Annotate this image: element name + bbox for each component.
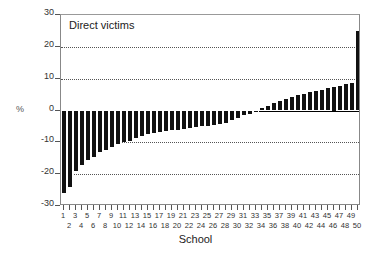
x-tick-mark — [249, 205, 250, 210]
bar — [337, 86, 342, 111]
x-tick-mark — [231, 205, 232, 210]
x-tick-mark — [207, 205, 208, 210]
x-tick-mark — [189, 205, 190, 210]
bar — [109, 111, 114, 148]
x-tick-mark — [141, 205, 142, 210]
bar — [181, 111, 186, 129]
y-tick-label: -30 — [41, 198, 54, 208]
y-tick-label: 0 — [49, 103, 54, 113]
bar — [121, 111, 126, 143]
bar — [343, 84, 348, 110]
x-tick-mark — [171, 205, 172, 210]
x-tick-mark — [303, 205, 304, 210]
y-tick-label: 20 — [44, 39, 54, 49]
x-tick-mark — [87, 205, 88, 210]
bar — [151, 111, 156, 133]
bar — [241, 111, 246, 116]
bar — [73, 111, 78, 171]
bar — [103, 111, 108, 151]
bar — [271, 103, 276, 110]
chart-figure: % 3020100-10-20-30 Direct victims 135791… — [0, 0, 391, 257]
x-tick-label: 50 — [347, 221, 367, 230]
x-tick-mark — [357, 205, 358, 210]
bar — [289, 97, 294, 110]
x-tick-mark — [75, 205, 76, 210]
x-tick-mark — [117, 205, 118, 210]
x-tick-mark — [291, 205, 292, 210]
chart-title: Direct victims — [69, 19, 134, 31]
bar — [193, 111, 198, 128]
x-tick-mark — [219, 205, 220, 210]
bar — [211, 111, 216, 125]
bar — [217, 111, 222, 124]
bar — [331, 87, 336, 111]
bar — [307, 92, 312, 110]
x-tick-mark — [105, 205, 106, 210]
y-tick-label: -20 — [41, 166, 54, 176]
x-tick-mark — [93, 205, 94, 210]
x-tick-mark — [213, 205, 214, 210]
bar — [253, 111, 258, 113]
bar — [157, 111, 162, 133]
x-tick-mark — [201, 205, 202, 210]
x-axis-labels-even: 2468101214161820222426283032343638404244… — [60, 221, 360, 232]
x-tick-mark — [81, 205, 82, 210]
bar — [163, 111, 168, 132]
x-tick-mark — [273, 205, 274, 210]
x-tick-mark — [135, 205, 136, 210]
x-tick-mark — [177, 205, 178, 210]
x-tick-mark — [237, 205, 238, 210]
y-tick-label: 30 — [44, 7, 54, 17]
x-tick-mark — [267, 205, 268, 210]
bar — [133, 111, 138, 138]
bar — [175, 111, 180, 130]
x-tick-mark — [243, 205, 244, 210]
x-tick-mark — [225, 205, 226, 210]
x-tick-mark — [195, 205, 196, 210]
x-tick-mark — [321, 205, 322, 210]
x-tick-mark — [351, 205, 352, 210]
plot-area: Direct victims — [60, 14, 360, 205]
bar — [139, 111, 144, 136]
x-tick-mark — [69, 205, 70, 210]
bar — [313, 91, 318, 111]
x-tick-mark — [333, 205, 334, 210]
bar — [67, 111, 72, 187]
bar — [199, 111, 204, 127]
bar — [277, 101, 282, 111]
x-tick-mark — [255, 205, 256, 210]
x-tick-mark — [111, 205, 112, 210]
bar — [235, 111, 240, 118]
bar — [79, 111, 84, 165]
x-tick-mark — [279, 205, 280, 210]
x-tick-mark — [159, 205, 160, 210]
x-tick-mark — [165, 205, 166, 210]
bar — [97, 111, 102, 152]
y-tick-label: -10 — [41, 134, 54, 144]
bar — [229, 111, 234, 121]
x-tick-mark — [129, 205, 130, 210]
bar — [265, 106, 270, 111]
x-tick-mark — [345, 205, 346, 210]
x-tick-mark — [327, 205, 328, 210]
y-axis-label: % — [8, 104, 32, 114]
bar — [259, 108, 264, 111]
x-tick-mark — [285, 205, 286, 210]
bar — [295, 95, 300, 110]
bar — [91, 111, 96, 157]
bar — [301, 94, 306, 111]
x-tick-mark — [63, 205, 64, 210]
bar — [61, 111, 66, 194]
bar — [247, 111, 252, 114]
x-tick-mark — [309, 205, 310, 210]
bar — [325, 88, 330, 110]
x-tick-mark — [147, 205, 148, 210]
x-axis-label: School — [0, 233, 391, 245]
bar-series — [61, 15, 359, 204]
x-tick-mark — [297, 205, 298, 210]
bar — [223, 111, 228, 123]
bar — [187, 111, 192, 129]
x-tick-mark — [261, 205, 262, 210]
bar — [169, 111, 174, 131]
x-tick-mark — [123, 205, 124, 210]
